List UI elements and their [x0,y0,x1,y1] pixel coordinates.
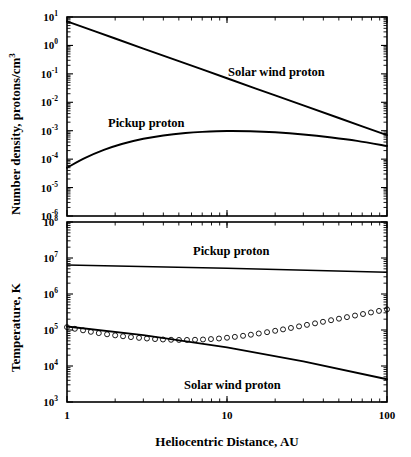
label-solar-wind-density: Solar wind proton [228,65,325,79]
y-axis-title-sup-top: 3 [7,53,17,58]
svg-text:104: 104 [43,358,58,372]
svg-text:Number density, protons/cm3: Number density, protons/cm3 [7,53,23,215]
svg-text:10: 10 [222,409,234,421]
curve-pickup-temperature [67,265,387,272]
panel-temperature: 108107106105104103 110100 Pickup proton … [8,214,396,449]
svg-text:10-5: 10-5 [41,180,58,194]
svg-text:10-4: 10-4 [41,151,58,165]
svg-text:10-3: 10-3 [41,123,58,137]
top-panel-y-axis-title: Number density, protons/cm3 [7,53,23,215]
y-axis-title-text-bottom: Temperature, K [8,282,23,372]
svg-text:106: 106 [43,286,58,300]
svg-text:10-1: 10-1 [41,66,58,80]
svg-text:100: 100 [379,409,396,421]
svg-text:100: 100 [43,37,58,51]
label-pickup-temperature: Pickup proton [193,244,270,258]
bottom-panel-y-axis-title: Temperature, K [8,282,23,372]
label-solar-wind-temperature: Solar wind proton [184,378,281,392]
markers-pickup-heated-temperature [65,307,390,343]
x-axis-tick-labels: 110100 [64,409,396,421]
figure-container: 10110010-110-210-310-410-510-6 Solar win… [0,0,411,457]
top-panel-y-tick-labels: 10110010-110-210-310-410-510-6 [41,9,59,222]
chart-svg: 10110010-110-210-310-410-510-6 Solar win… [0,0,411,457]
svg-text:108: 108 [43,214,58,228]
svg-text:103: 103 [43,394,58,408]
svg-text:105: 105 [43,322,58,336]
panel-number-density: 10110010-110-210-310-410-510-6 Solar win… [7,9,387,222]
y-axis-title-text-top: Number density, protons/cm [8,57,23,215]
svg-text:1: 1 [64,409,70,421]
bottom-panel-y-tick-labels: 108107106105104103 [43,214,58,408]
x-axis-title: Heliocentric Distance, AU [155,434,299,449]
label-pickup-density: Pickup proton [108,116,185,130]
svg-text:10-2: 10-2 [41,94,58,108]
svg-text:101: 101 [43,9,58,23]
svg-text:107: 107 [43,250,58,264]
curve-solar-wind-temperature [67,327,387,380]
curve-pickup-density [67,131,387,168]
